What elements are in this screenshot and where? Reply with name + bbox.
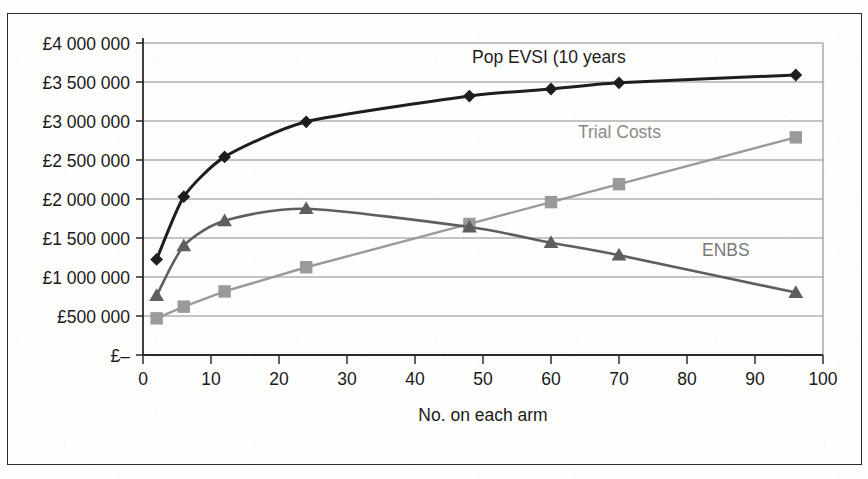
series-label-pop-evsi: Pop EVSI (10 years: [472, 47, 626, 67]
data-point-marker: [150, 253, 163, 266]
x-axis-ticks: [143, 355, 823, 364]
y-tick-label-500000: £500 000: [57, 307, 130, 327]
y-tick-label-3000000: £3 000 000: [42, 112, 130, 132]
data-point-marker: [150, 312, 162, 324]
data-point-marker: [545, 83, 558, 96]
series-label-trial-costs: Trial Costs: [578, 122, 661, 142]
data-point-marker: [300, 261, 312, 273]
data-point-marker: [463, 90, 476, 103]
x-tick-label-40: 40: [405, 369, 425, 389]
data-point-marker: [178, 300, 190, 312]
y-tick-label-2500000: £2 500 000: [42, 151, 130, 171]
data-point-marker: [613, 76, 626, 89]
x-tick-label-20: 20: [269, 369, 289, 389]
y-tick-label-4000000: £4 000 000: [42, 34, 130, 54]
data-point-marker: [300, 115, 313, 128]
series-markers-pop-evsi: [150, 69, 802, 266]
data-point-marker: [613, 178, 625, 190]
data-point-marker: [149, 288, 164, 301]
y-tick-label-0: £–: [111, 346, 131, 366]
y-tick-label-1000000: £1 000 000: [42, 268, 130, 288]
x-tick-label-70: 70: [609, 369, 629, 389]
x-tick-label-100: 100: [808, 369, 837, 389]
y-gridlines: [143, 43, 823, 316]
x-axis-tick-labels: 0 10 20 30 40 50 60 70 80 90 100: [138, 369, 838, 389]
x-axis-title: No. on each arm: [418, 405, 547, 425]
y-tick-label-1500000: £1 500 000: [42, 229, 130, 249]
y-tick-label-2000000: £2 000 000: [42, 190, 130, 210]
x-tick-label-80: 80: [677, 369, 697, 389]
figure-root: £4 000 000 £3 500 000 £3 000 000 £2 500 …: [0, 0, 868, 479]
y-tick-label-3500000: £3 500 000: [42, 73, 130, 93]
x-tick-label-50: 50: [473, 369, 493, 389]
data-point-marker: [218, 285, 230, 297]
x-tick-label-0: 0: [138, 369, 148, 389]
data-point-marker: [789, 69, 802, 82]
series-pop-evsi: [150, 69, 802, 266]
y-axis-ticks: [136, 43, 143, 355]
series-label-enbs: ENBS: [702, 240, 750, 260]
data-point-marker: [545, 196, 557, 208]
x-tick-label-30: 30: [337, 369, 357, 389]
data-point-marker: [790, 131, 802, 143]
x-tick-label-90: 90: [745, 369, 765, 389]
y-axis-tick-labels: £4 000 000 £3 500 000 £3 000 000 £2 500 …: [42, 34, 130, 366]
x-tick-label-10: 10: [201, 369, 221, 389]
line-chart: £4 000 000 £3 500 000 £3 000 000 £2 500 …: [0, 0, 868, 479]
x-tick-label-60: 60: [541, 369, 561, 389]
